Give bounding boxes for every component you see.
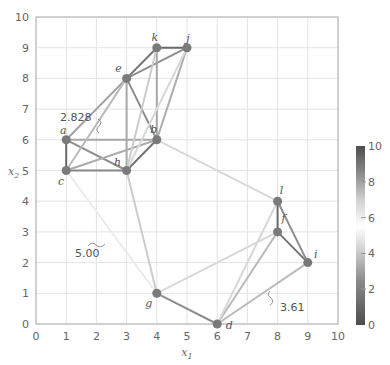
- x-tick-label: 5: [184, 330, 191, 343]
- node-h: [122, 166, 131, 175]
- edge-f-i: [278, 232, 308, 263]
- node-k: [152, 43, 161, 52]
- node-i: [303, 258, 312, 267]
- y-tick-label: 2: [22, 257, 29, 270]
- x-tick-label: 0: [33, 330, 40, 343]
- colorbar: 0246810: [356, 140, 382, 332]
- y-tick-label: 0: [22, 318, 29, 331]
- colorbar-tick-label: 6: [368, 212, 375, 225]
- edge-c-b: [66, 140, 157, 171]
- node-e: [122, 74, 131, 83]
- x-tick-label: 9: [304, 330, 311, 343]
- node-label-i: i: [314, 248, 318, 261]
- node-g: [152, 289, 161, 298]
- node-label-k: k: [151, 31, 158, 44]
- y-tick-label: 3: [22, 226, 29, 239]
- y-tick-label: 5: [22, 165, 29, 178]
- colorbar-tick-label: 0: [368, 319, 375, 332]
- colorbar-tick-label: 4: [368, 247, 375, 260]
- node-label-b: b: [150, 123, 157, 136]
- edge-weight-annotation: 3.61: [280, 301, 305, 314]
- node-label-g: g: [145, 297, 152, 310]
- node-d: [213, 320, 222, 329]
- node-label-l: l: [280, 184, 284, 197]
- node-f: [273, 227, 282, 236]
- y-axis-label: x2: [8, 165, 19, 180]
- node-label-c: c: [58, 175, 64, 188]
- y-tick-label: 7: [22, 103, 29, 116]
- x-tick-label: 10: [331, 330, 345, 343]
- x-tick-label: 7: [244, 330, 251, 343]
- y-tick-label: 9: [22, 42, 29, 55]
- x-tick-label: 6: [214, 330, 221, 343]
- x-axis-label: x1: [181, 346, 192, 361]
- x-tick-label: 4: [153, 330, 160, 343]
- x-tick-label: 1: [63, 330, 70, 343]
- y-tick-label: 8: [22, 72, 29, 85]
- x-tick-label: 8: [274, 330, 281, 343]
- y-tick-label: 4: [22, 195, 29, 208]
- edge-weight-annotation: 5.00: [75, 247, 100, 260]
- node-label-j: j: [183, 32, 190, 45]
- x-tick-label: 3: [123, 330, 130, 343]
- colorbar-gradient: [356, 146, 365, 325]
- graph-chart: 012345678910012345678910x1x2 abcdefghijk…: [0, 0, 390, 365]
- x-tick-label: 2: [93, 330, 100, 343]
- colorbar-tick-label: 2: [368, 283, 375, 296]
- nodes: abcdefghijkl: [58, 31, 317, 332]
- y-tick-label: 1: [22, 287, 29, 300]
- node-label-d: d: [226, 319, 233, 332]
- edge-weight-annotation: 2.828: [60, 111, 92, 124]
- y-tick-label: 10: [15, 11, 29, 24]
- colorbar-tick-label: 8: [368, 176, 375, 189]
- node-label-a: a: [60, 124, 67, 137]
- node-b: [152, 135, 161, 144]
- y-tick-label: 6: [22, 134, 29, 147]
- node-label-h: h: [114, 156, 121, 169]
- node-label-e: e: [115, 62, 122, 75]
- node-l: [273, 197, 282, 206]
- colorbar-tick-label: 10: [368, 140, 382, 153]
